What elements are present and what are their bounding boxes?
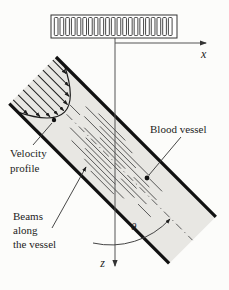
transducer-element xyxy=(71,18,75,36)
theta-label: θ xyxy=(131,220,137,232)
transducer-element xyxy=(60,18,64,36)
transducer-element xyxy=(128,18,132,36)
transducer-elements-group xyxy=(54,18,172,36)
blood-vessel-dot xyxy=(145,176,150,181)
transducer-element xyxy=(106,18,110,36)
figure-svg: x z θ Velocity profile Blood vessel Beam… xyxy=(0,0,229,290)
transducer-element xyxy=(163,18,167,36)
transducer-element xyxy=(111,18,115,36)
velocity-profile-label-line2: profile xyxy=(10,162,39,174)
transducer-element xyxy=(77,18,81,36)
x-axis-label: x xyxy=(200,47,207,61)
z-axis-label: z xyxy=(99,256,105,270)
transducer-element xyxy=(117,18,121,36)
transducer-element xyxy=(146,18,150,36)
beams-label-line1: Beams xyxy=(13,210,43,222)
transducer-element xyxy=(94,18,98,36)
transducer-element xyxy=(168,18,172,36)
transducer-element xyxy=(100,18,104,36)
figure: x z θ Velocity profile Blood vessel Beam… xyxy=(0,0,229,290)
beams-label-line3: the vessel xyxy=(13,238,56,250)
transducer-element xyxy=(89,18,93,36)
transducer-element xyxy=(134,18,138,36)
transducer-element xyxy=(157,18,161,36)
transducer-array xyxy=(51,15,177,38)
transducer-element xyxy=(151,18,155,36)
beams-label-line2: along xyxy=(13,224,38,236)
transducer-element xyxy=(66,18,70,36)
velocity-profile-dot xyxy=(52,118,56,122)
blood-vessel-label: Blood vessel xyxy=(150,123,207,135)
transducer-element xyxy=(54,18,58,36)
transducer-element xyxy=(123,18,127,36)
velocity-profile-label-line1: Velocity xyxy=(10,147,47,159)
transducer-element xyxy=(140,18,144,36)
transducer-element xyxy=(83,18,87,36)
